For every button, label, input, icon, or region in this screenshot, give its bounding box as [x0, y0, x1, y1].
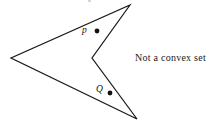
non-convex-polygon — [11, 5, 137, 119]
point-p-dot — [95, 29, 100, 34]
point-p-label: p — [82, 26, 87, 36]
figure-container: p Q Not a convex set — [0, 0, 218, 123]
figure-caption: Not a convex set — [135, 52, 206, 63]
point-q-dot — [108, 91, 113, 96]
point-q-label: Q — [96, 85, 103, 95]
